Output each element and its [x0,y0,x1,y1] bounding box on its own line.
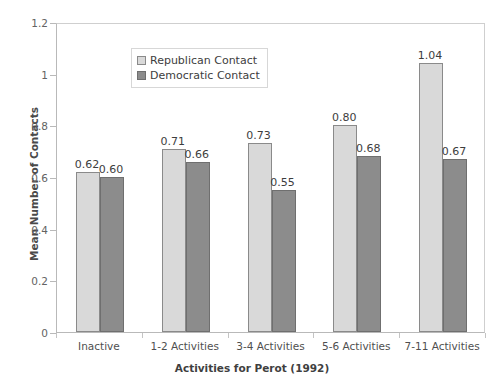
x-axis-category-label: Inactive [78,340,120,352]
x-axis-category-label: 7-11 Activities [405,340,480,352]
bar-democratic-2 [272,190,296,332]
bar-value-label: 1.04 [418,49,443,62]
bar-republican-2 [248,143,272,332]
bar-value-label: 0.55 [270,176,295,189]
x-axis-category-label: 3-4 Activities [236,340,304,352]
x-axis-tick [228,333,229,338]
y-axis-tick-label: 0.8 [18,120,48,132]
bar-value-label: 0.66 [184,148,209,161]
legend-item-democratic: Democratic Contact [137,68,260,83]
bar-chart: Mean Number of Contacts 00.20.40.60.811.… [0,0,504,389]
legend: Republican Contact Democratic Contact [131,48,268,88]
bar-value-label: 0.62 [75,158,100,171]
bar-value-label: 0.68 [356,142,381,155]
x-axis-category-label: 5-6 Activities [322,340,390,352]
x-axis-category-label: 1-2 Activities [150,340,218,352]
bar-value-label: 0.67 [442,145,467,158]
bar-value-label: 0.60 [99,163,124,176]
y-axis-title: Mean Number of Contacts [28,84,40,284]
y-axis-tick-label: 1.2 [18,17,48,29]
bar-democratic-3 [357,156,381,332]
bar-republican-0 [76,172,100,332]
x-axis-tick [313,333,314,338]
bar-value-label: 0.73 [246,129,271,142]
bar-republican-4 [419,63,443,332]
legend-label-democratic: Democratic Contact [150,69,260,82]
legend-item-republican: Republican Contact [137,53,260,68]
legend-swatch-icon-republican [137,56,146,65]
x-axis-tick [399,333,400,338]
y-axis-tick-label: 0.2 [18,275,48,287]
bar-republican-1 [162,149,186,332]
y-axis-tick-label: 1 [18,69,48,81]
bar-democratic-4 [443,159,467,332]
x-axis-tick [485,333,486,338]
legend-swatch-icon-democratic [137,71,146,80]
y-axis-tick-label: 0 [18,327,48,339]
bar-value-label: 0.80 [332,111,357,124]
y-axis-tick-label: 0.4 [18,224,48,236]
bar-democratic-1 [186,162,210,333]
bar-republican-3 [333,125,357,332]
y-axis-tick-label: 0.6 [18,172,48,184]
x-axis-title: Activities for Perot (1992) [0,362,504,374]
legend-label-republican: Republican Contact [150,54,257,67]
bar-democratic-0 [100,177,124,332]
bar-value-label: 0.71 [160,135,185,148]
x-axis-tick [56,333,57,338]
x-axis-tick [142,333,143,338]
